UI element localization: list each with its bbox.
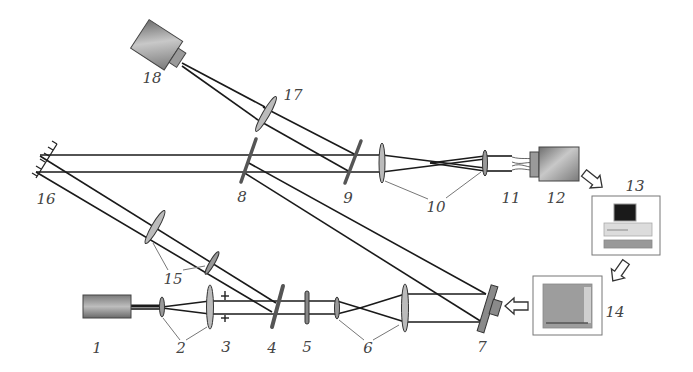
label-3: 3 xyxy=(221,340,231,355)
label-14: 14 xyxy=(605,305,624,320)
label-10: 10 xyxy=(426,200,445,215)
beam-splitter-4 xyxy=(272,286,283,327)
label-8: 8 xyxy=(237,190,247,205)
label-2: 2 xyxy=(176,341,186,356)
lens-6b xyxy=(402,284,409,332)
laser-1 xyxy=(83,295,131,318)
label-17: 17 xyxy=(283,88,302,103)
arrow-13-to-14 xyxy=(606,257,632,285)
label-4: 4 xyxy=(267,341,277,356)
label-13: 13 xyxy=(625,179,644,194)
label-9: 9 xyxy=(343,191,353,206)
aperture-3 xyxy=(221,291,229,322)
label-16: 16 xyxy=(36,192,55,207)
label-11: 11 xyxy=(501,191,520,206)
label-1: 1 xyxy=(92,341,102,356)
upper-beam-path xyxy=(36,63,512,172)
label-7: 7 xyxy=(477,340,487,355)
computer-13 xyxy=(592,196,660,255)
lens-11 xyxy=(483,150,488,176)
label-12: 12 xyxy=(546,191,565,206)
camera-18 xyxy=(131,20,191,75)
controller-14 xyxy=(533,276,602,335)
label-6: 6 xyxy=(363,341,373,356)
label-15: 15 xyxy=(163,272,182,287)
lens-15a xyxy=(142,209,167,245)
arrow-12-to-13 xyxy=(579,167,607,194)
arrow-14-to-7 xyxy=(505,298,528,314)
camera-12 xyxy=(530,147,579,181)
label-5: 5 xyxy=(302,340,312,355)
beam-splitter-9 xyxy=(345,141,361,183)
lens-15b xyxy=(203,250,220,275)
optical-setup-diagram: 1 2 3 4 5 6 7 8 9 10 11 12 13 14 15 16 1… xyxy=(0,0,693,372)
lens-6a xyxy=(335,297,340,319)
lens-2b xyxy=(207,285,214,329)
polarizer-5 xyxy=(305,291,309,324)
label-18: 18 xyxy=(142,71,161,86)
lens-10 xyxy=(379,143,385,183)
lens-2a xyxy=(160,297,165,317)
